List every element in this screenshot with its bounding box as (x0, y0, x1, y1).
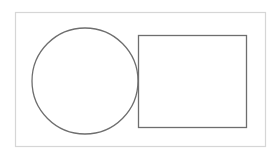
outer-frame (16, 13, 266, 147)
rectangle-shape (139, 36, 247, 128)
circle-shape (32, 28, 138, 134)
diagram-canvas (0, 0, 278, 154)
